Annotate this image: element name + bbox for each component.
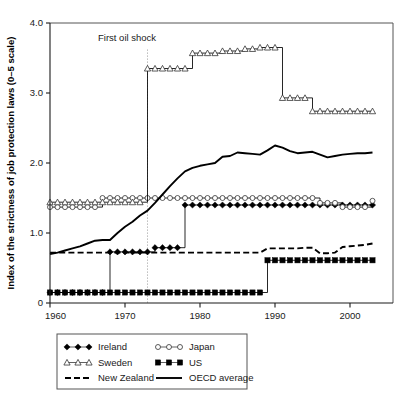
series-us <box>47 258 375 295</box>
y-axis-tick-label: 3.0 <box>30 87 43 98</box>
data-point-marker <box>204 202 210 208</box>
data-point-marker <box>55 290 60 295</box>
data-point-marker <box>242 202 248 208</box>
data-point-marker <box>272 258 277 263</box>
data-point-marker <box>178 345 183 350</box>
data-point-marker <box>235 196 240 201</box>
series-line-path <box>50 48 373 203</box>
data-point-marker <box>234 202 240 208</box>
legend-item-label: Sweden <box>98 357 132 368</box>
x-axis-tick-label: 1970 <box>114 310 135 321</box>
data-point-marker <box>70 205 75 210</box>
legend-item-oecd-average[interactable]: OECD average <box>156 372 253 383</box>
series-new-zealand <box>50 244 373 254</box>
data-point-marker <box>64 344 70 350</box>
data-point-marker <box>355 258 360 263</box>
data-point-marker <box>250 196 255 201</box>
data-point-marker <box>100 290 105 295</box>
x-axis-tick-label: 1990 <box>264 310 285 321</box>
data-point-marker <box>137 290 142 295</box>
data-point-marker <box>63 205 68 210</box>
data-point-marker <box>122 290 127 295</box>
data-point-marker <box>166 360 171 365</box>
data-point-marker <box>182 290 187 295</box>
y-axis-title: Index of the strictness of job protectio… <box>5 37 16 290</box>
data-point-marker <box>318 200 323 205</box>
data-point-marker <box>347 258 352 263</box>
data-point-marker <box>107 290 112 295</box>
data-point-marker <box>182 202 188 208</box>
data-point-marker <box>280 258 285 263</box>
legend-item-us[interactable]: US <box>155 357 202 368</box>
data-point-marker <box>250 290 255 295</box>
data-point-marker <box>92 290 97 295</box>
series-line-path <box>50 260 373 292</box>
data-point-marker <box>227 290 232 295</box>
data-point-marker <box>243 196 248 201</box>
data-point-marker <box>86 344 92 350</box>
data-point-marker <box>317 258 322 263</box>
legend-item-new-zealand[interactable]: New Zealand <box>65 372 154 383</box>
annotation-label-first-oil-shock: First oil shock <box>98 32 156 43</box>
data-point-marker <box>219 202 225 208</box>
data-point-marker <box>152 245 158 251</box>
legend-item-ireland[interactable]: Ireland <box>64 341 127 352</box>
data-point-marker <box>235 290 240 295</box>
legend-item-label: Ireland <box>98 341 127 352</box>
job-protection-index-line-chart: First oil shock 01.02.03.04.019601970198… <box>0 0 405 405</box>
x-axis-tick-label: 2000 <box>339 310 360 321</box>
data-point-marker <box>249 202 255 208</box>
data-point-marker <box>242 290 247 295</box>
data-point-marker <box>257 290 262 295</box>
y-axis-tick-label: 0 <box>38 297 43 308</box>
data-point-marker <box>370 198 375 203</box>
data-point-marker <box>302 258 307 263</box>
data-point-marker <box>325 258 330 263</box>
data-point-marker <box>190 290 195 295</box>
data-point-marker <box>265 196 270 201</box>
data-point-marker <box>197 290 202 295</box>
data-point-marker <box>168 196 173 201</box>
data-point-marker <box>220 196 225 201</box>
data-point-marker <box>227 202 233 208</box>
data-point-marker <box>257 202 263 208</box>
y-axis-tick-label: 2.0 <box>30 157 43 168</box>
data-point-marker <box>152 290 157 295</box>
data-point-marker <box>55 205 60 210</box>
legend-item-sweden[interactable]: Sweden <box>64 357 132 368</box>
x-axis-tick-label: 1980 <box>189 310 210 321</box>
legend-group: IrelandJapanSwedenUSNew ZealandOECD aver… <box>57 334 253 389</box>
data-point-marker <box>295 196 300 201</box>
data-point-marker <box>309 202 315 208</box>
series-group <box>47 44 376 295</box>
data-point-marker <box>177 360 182 365</box>
data-point-marker <box>280 196 285 201</box>
data-point-marker <box>167 345 172 350</box>
y-axis-tick-label: 1.0 <box>30 227 43 238</box>
data-point-marker <box>174 245 180 251</box>
legend-item-label: Japan <box>189 341 215 352</box>
data-point-marker <box>198 196 203 201</box>
data-point-marker <box>70 290 75 295</box>
data-point-marker <box>212 290 217 295</box>
data-point-marker <box>295 258 300 263</box>
data-point-marker <box>175 196 180 201</box>
data-point-marker <box>264 202 270 208</box>
data-point-marker <box>78 205 83 210</box>
chart-figure: First oil shock 01.02.03.04.019601970198… <box>0 0 405 405</box>
data-point-marker <box>190 196 195 201</box>
data-point-marker <box>294 202 300 208</box>
x-axis-tick-label: 1960 <box>45 310 66 321</box>
data-point-marker <box>265 258 270 263</box>
series-sweden <box>47 44 376 204</box>
data-point-marker <box>279 202 285 208</box>
data-point-marker <box>197 202 203 208</box>
data-point-marker <box>145 290 150 295</box>
data-point-marker <box>160 290 165 295</box>
data-point-marker <box>258 196 263 201</box>
data-point-marker <box>167 290 172 295</box>
data-point-marker <box>155 360 160 365</box>
data-point-marker <box>273 196 278 201</box>
legend-item-japan[interactable]: Japan <box>156 341 215 352</box>
data-point-marker <box>303 196 308 201</box>
